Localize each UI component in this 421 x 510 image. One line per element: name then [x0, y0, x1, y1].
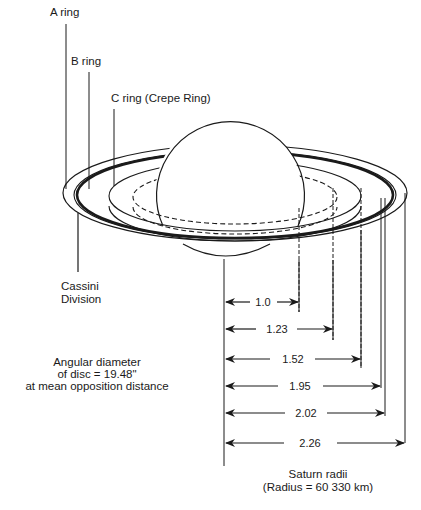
a-ring-label: A ring	[50, 6, 79, 18]
units-line-1: Saturn radii	[289, 468, 348, 480]
angular-line-2: of disc = 19.48"	[57, 368, 136, 380]
dimension-2-02: 2.02	[226, 407, 384, 419]
radius-1-23: 1.23	[266, 323, 287, 335]
radius-1-95: 1.95	[289, 380, 310, 392]
saturn-ring-diagram: A ring B ring C ring (Crepe Ring) Cassin…	[0, 0, 421, 510]
dimension-1-95: 1.95	[226, 380, 380, 392]
radius-2-02: 2.02	[295, 407, 316, 419]
dimension-1-0: 1.0	[226, 296, 298, 308]
cassini-label-1: Cassini	[61, 280, 99, 292]
angular-line-1: Angular diameter	[53, 356, 141, 368]
radius-1-52: 1.52	[282, 353, 303, 365]
units-line-2: (Radius = 60 330 km)	[263, 481, 373, 493]
c-ring-label: C ring (Crepe Ring)	[111, 92, 211, 104]
planet-mask	[156, 118, 302, 217]
radius-2-26: 2.26	[299, 437, 320, 449]
dimension-1-23: 1.23	[226, 323, 332, 335]
b-ring-label: B ring	[71, 55, 101, 67]
dimension-1-52: 1.52	[226, 353, 360, 365]
dimension-2-26: 2.26	[226, 437, 404, 449]
planet-lower-limb	[183, 244, 270, 256]
cassini-label-2: Division	[61, 293, 101, 305]
radius-1-0: 1.0	[255, 296, 270, 308]
angular-line-3: at mean opposition distance	[25, 380, 168, 392]
